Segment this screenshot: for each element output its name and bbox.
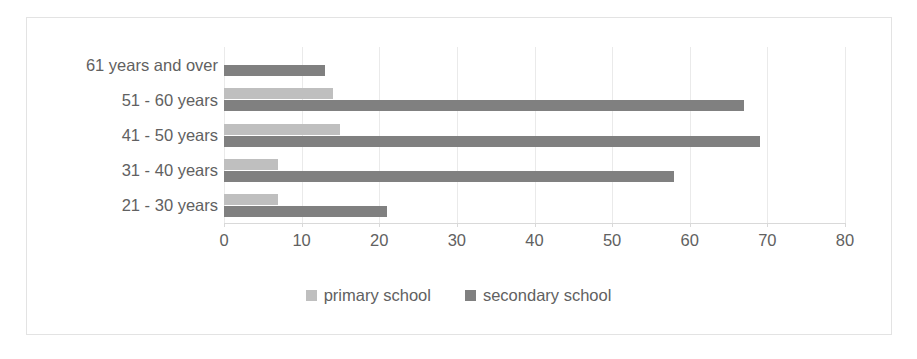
x-tick-0 <box>224 223 225 227</box>
y-axis-label-61-years-and-over: 61 years and over <box>30 57 218 74</box>
x-tick-40 <box>535 223 536 227</box>
x-tick-10 <box>302 223 303 227</box>
bar-primary-school-21---30-years <box>224 194 278 205</box>
bar-secondary-school-61-years-and-over <box>224 65 325 76</box>
x-tick-60 <box>690 223 691 227</box>
bar-secondary-school-21---30-years <box>224 206 387 217</box>
x-tick-20 <box>379 223 380 227</box>
legend-label: primary school <box>324 287 431 304</box>
bar-secondary-school-41---50-years <box>224 136 760 147</box>
bar-secondary-school-31---40-years <box>224 171 674 182</box>
x-tick-label-50: 50 <box>603 232 621 249</box>
x-tick-label-10: 10 <box>292 232 310 249</box>
bar-primary-school-51---60-years <box>224 88 333 99</box>
y-axis-category-labels: 21 - 30 years31 - 40 years41 - 50 years5… <box>30 47 218 223</box>
x-tick-70 <box>767 223 768 227</box>
y-axis-label-41---50-years: 41 - 50 years <box>30 127 218 144</box>
gridline-80 <box>845 47 846 223</box>
chart-container: 21 - 30 years31 - 40 years41 - 50 years5… <box>0 0 917 359</box>
x-tick-label-0: 0 <box>219 232 228 249</box>
x-tick-50 <box>612 223 613 227</box>
x-tick-label-80: 80 <box>836 232 854 249</box>
chart-legend: primary schoolsecondary school <box>0 287 917 304</box>
legend-label: secondary school <box>483 287 611 304</box>
bar-primary-school-31---40-years <box>224 159 278 170</box>
x-tick-label-60: 60 <box>681 232 699 249</box>
x-tick-80 <box>845 223 846 227</box>
x-tick-label-30: 30 <box>448 232 466 249</box>
bar-secondary-school-51---60-years <box>224 100 744 111</box>
y-axis-label-21---30-years: 21 - 30 years <box>30 197 218 214</box>
y-axis-label-31---40-years: 31 - 40 years <box>30 162 218 179</box>
legend-swatch-icon-primary <box>306 290 317 301</box>
bar-primary-school-41---50-years <box>224 124 340 135</box>
x-tick-label-40: 40 <box>525 232 543 249</box>
x-tick-30 <box>457 223 458 227</box>
x-tick-label-70: 70 <box>758 232 776 249</box>
bars-group <box>224 47 845 223</box>
legend-item-secondary-school[interactable]: secondary school <box>465 287 611 304</box>
legend-item-primary-school[interactable]: primary school <box>306 287 431 304</box>
y-axis-label-51---60-years: 51 - 60 years <box>30 92 218 109</box>
legend-swatch-icon-secondary <box>465 290 476 301</box>
x-axis-tick-labels: 01020304050607080 <box>0 232 917 258</box>
x-tick-label-20: 20 <box>370 232 388 249</box>
